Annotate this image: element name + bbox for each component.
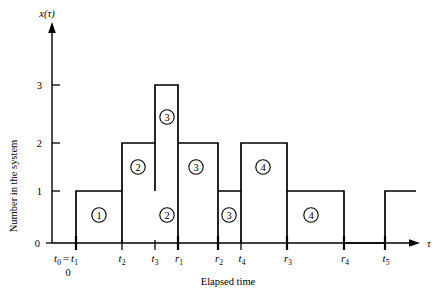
marker-label: 3	[226, 210, 231, 221]
x-tick-label-t4: t4	[239, 252, 246, 267]
origin-label: 0	[65, 267, 70, 278]
customer-markers: 1 2 3 3 2 3 4	[92, 110, 318, 222]
x-tick-label-r4: r4	[341, 252, 349, 267]
marker-label: 4	[308, 210, 314, 221]
y-ticks	[46, 85, 60, 243]
y-axis	[48, 22, 56, 243]
y-tick-label-3: 3	[37, 80, 42, 91]
customer-marker-4b: 4	[304, 208, 318, 222]
x-tick-label-r3: r3	[284, 252, 292, 267]
cell-dividers	[122, 143, 287, 243]
x-axis-title: τ	[427, 238, 432, 249]
customer-marker-3a: 3	[160, 110, 174, 124]
step-function-chart: 3 2 1 0 x(τ) Number in the system t0=t1 …	[0, 0, 434, 291]
marker-label: 4	[260, 162, 266, 173]
x-tick-label-t0-t1: t0=t1	[54, 252, 78, 267]
marker-label: 1	[96, 210, 101, 221]
customer-marker-2a: 2	[131, 160, 145, 174]
y-axis-label: Number in the system	[8, 140, 19, 232]
x-axis-label: Elapsed time	[201, 276, 256, 287]
marker-label: 2	[164, 210, 169, 221]
x-tick-label-t2: t2	[119, 252, 126, 267]
y-tick-label-1: 1	[37, 186, 42, 197]
customer-marker-4a: 4	[256, 160, 270, 174]
x-tick-label-r2: r2	[215, 252, 223, 267]
step-function-path	[76, 85, 416, 243]
x-axis-arrowhead	[409, 239, 420, 247]
x-tick-label-r1: r1	[175, 252, 183, 267]
marker-label: 2	[135, 162, 140, 173]
x-tick-label-t5: t5	[383, 252, 390, 267]
y-axis-arrowhead	[48, 22, 56, 33]
y-tick-label-0: 0	[35, 238, 40, 249]
y-axis-title: x(τ)	[38, 8, 55, 20]
customer-marker-1: 1	[92, 208, 106, 222]
customer-marker-3c: 3	[222, 208, 236, 222]
y-tick-label-2: 2	[37, 138, 42, 149]
marker-label: 3	[164, 112, 169, 123]
customer-marker-2b: 2	[160, 208, 174, 222]
customer-marker-3b: 3	[189, 160, 203, 174]
marker-label: 3	[193, 162, 198, 173]
x-tick-labels: t0=t1 t2 t3 r1 r2 t4 r3 r4 t5	[54, 252, 390, 267]
figure-container: 3 2 1 0 x(τ) Number in the system t0=t1 …	[0, 0, 434, 291]
x-tick-label-t3: t3	[152, 252, 159, 267]
